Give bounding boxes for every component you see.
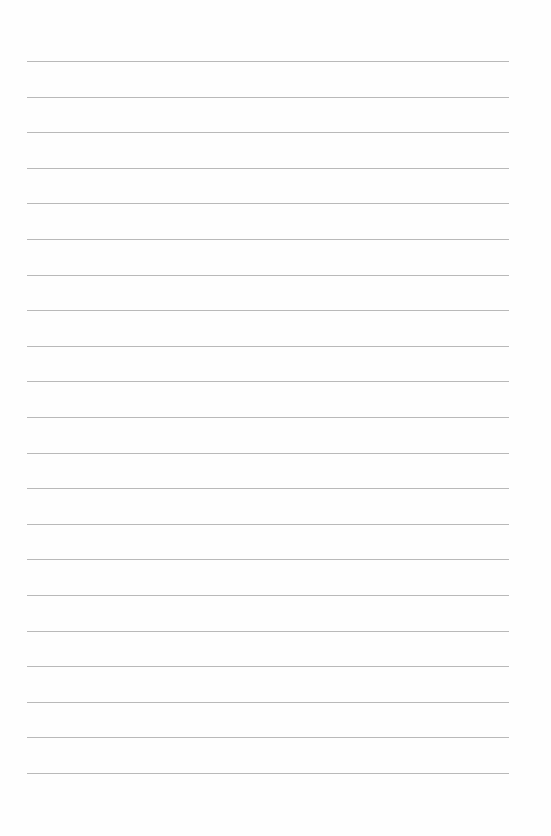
ruled-line (27, 737, 509, 738)
ruled-line (27, 61, 509, 62)
ruled-line (27, 702, 509, 703)
ruled-line (27, 631, 509, 632)
lined-paper-page (0, 0, 551, 836)
ruled-line (27, 381, 509, 382)
ruled-line (27, 275, 509, 276)
ruled-line (27, 310, 509, 311)
ruled-line (27, 239, 509, 240)
ruled-line (27, 666, 509, 667)
ruled-line (27, 346, 509, 347)
ruled-line (27, 488, 509, 489)
ruled-line (27, 132, 509, 133)
ruled-line (27, 203, 509, 204)
ruled-line (27, 773, 509, 774)
ruled-line (27, 97, 509, 98)
ruled-line (27, 595, 509, 596)
ruled-line (27, 453, 509, 454)
ruled-line (27, 559, 509, 560)
ruled-line (27, 168, 509, 169)
ruled-line (27, 417, 509, 418)
ruled-line (27, 524, 509, 525)
